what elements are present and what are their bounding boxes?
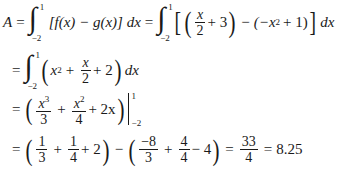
integral-sign: ∫1−2: [24, 52, 40, 88]
close-paren: ): [117, 94, 124, 124]
fraction-x3-over-3: x33: [36, 92, 51, 127]
plus-sign: +: [164, 141, 172, 158]
evaluation-bar: 1−2: [128, 93, 139, 125]
dx: dx: [320, 14, 334, 31]
plus-2x: + 2x: [88, 101, 115, 118]
open-bracket: [: [175, 8, 182, 36]
equals-sign: =: [145, 14, 153, 31]
equals-sign: =: [264, 141, 272, 158]
fraction-x-over-2: x2: [80, 55, 91, 86]
equation-line-2: = ∫1−2 ( x2 + x2 + 2 ) dx: [8, 52, 139, 88]
equals-sign: =: [16, 14, 24, 31]
integrand-fg: [f(x) − g(x)] dx: [49, 14, 141, 31]
dx: dx: [125, 62, 139, 79]
x-term: x: [50, 62, 57, 79]
minus-sign: −: [241, 14, 249, 31]
plus-sign: +: [57, 101, 65, 118]
equals-sign: =: [12, 101, 20, 118]
fraction-x-over-2: x2: [195, 7, 206, 38]
close-paren: ): [229, 7, 236, 37]
open-paren: (: [42, 55, 49, 85]
open-paren: (: [129, 135, 136, 165]
equation-line-4: = ( 13 + 14 + 2 ) − ( −83 + 44 − 4 ) = 3…: [8, 134, 302, 165]
minus-four: − 4: [192, 141, 212, 158]
close-paren: ): [213, 135, 220, 165]
equals-sign: =: [12, 62, 20, 79]
equation-line-1: A = ∫1−2 [f(x) − g(x)] dx = ∫1−2 [ ( x2 …: [0, 4, 334, 40]
area-variable: A: [3, 14, 12, 31]
open-paren: (: [26, 94, 33, 124]
fraction-4-over-4: 44: [179, 134, 190, 165]
plus-two: + 2: [81, 141, 101, 158]
open-paren: (: [26, 135, 33, 165]
minus-sign: −: [115, 141, 123, 158]
integral-sign: ∫1−2: [157, 4, 173, 40]
plus-three: + 3: [208, 14, 228, 31]
fraction-33-over-4: 334: [240, 134, 258, 165]
close-paren: ): [102, 135, 109, 165]
plus-sign: +: [66, 62, 74, 79]
g-close: + 1): [283, 14, 308, 31]
integral-sign: ∫1−2: [29, 4, 45, 40]
equals-sign: =: [12, 141, 20, 158]
plus-two: + 2: [93, 62, 113, 79]
close-bracket: ]: [309, 8, 316, 36]
equation-line-3: = ( x33 + x24 + 2x ) 1−2: [8, 92, 139, 127]
plus-sign: +: [53, 141, 61, 158]
exponent: 2: [276, 17, 281, 27]
close-paren: ): [114, 55, 121, 85]
fraction-neg8-over-3: −83: [139, 134, 158, 165]
equals-sign: =: [225, 141, 233, 158]
open-paren: (: [184, 7, 191, 37]
g-open: (−x: [254, 14, 276, 31]
fraction-x2-over-4: x24: [72, 92, 87, 127]
fraction-1-over-3: 13: [36, 134, 47, 165]
fraction-1-over-4: 14: [68, 134, 79, 165]
final-result: 8.25: [276, 141, 302, 158]
exponent: 2: [57, 65, 62, 75]
